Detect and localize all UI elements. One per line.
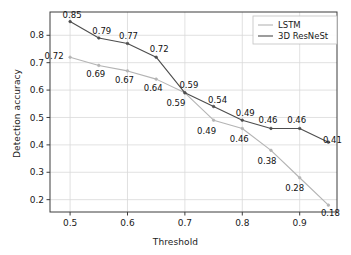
x-axis-title: Threshold — [0, 237, 351, 247]
svg-text:0.4: 0.4 — [30, 140, 45, 150]
y-axis-title-wrapper: Detection accuracy — [5, 54, 24, 174]
svg-text:0.38: 0.38 — [258, 156, 277, 166]
svg-text:0.59: 0.59 — [179, 80, 198, 90]
svg-text:0.28: 0.28 — [285, 183, 304, 193]
chart-figure: 0.50.60.70.80.90.20.30.40.50.60.70.8 0.7… — [0, 0, 351, 255]
svg-text:0.18: 0.18 — [321, 208, 340, 218]
svg-text:0.79: 0.79 — [92, 26, 111, 36]
svg-text:0.3: 0.3 — [30, 167, 44, 177]
svg-text:0.5: 0.5 — [30, 113, 44, 123]
svg-text:0.69: 0.69 — [86, 69, 105, 79]
svg-text:0.2: 0.2 — [30, 195, 44, 205]
svg-text:0.72: 0.72 — [150, 44, 169, 54]
svg-text:0.64: 0.64 — [144, 83, 163, 93]
svg-text:0.7: 0.7 — [30, 58, 44, 68]
svg-text:0.6: 0.6 — [120, 218, 135, 228]
svg-text:3D ResNeSt: 3D ResNeSt — [278, 31, 329, 41]
svg-text:0.59: 0.59 — [166, 98, 185, 108]
svg-text:0.8: 0.8 — [30, 30, 45, 40]
svg-text:0.49: 0.49 — [236, 108, 255, 118]
svg-text:0.41: 0.41 — [323, 135, 342, 145]
svg-text:0.54: 0.54 — [208, 95, 227, 105]
detection-accuracy-line-chart: 0.50.60.70.80.90.20.30.40.50.60.70.8 0.7… — [0, 0, 351, 255]
svg-text:0.5: 0.5 — [63, 218, 77, 228]
svg-text:0.85: 0.85 — [63, 10, 82, 20]
svg-text:0.46: 0.46 — [230, 134, 249, 144]
svg-text:0.77: 0.77 — [119, 31, 138, 41]
y-axis-title: Detection accuracy — [12, 69, 22, 158]
svg-text:0.49: 0.49 — [197, 126, 216, 136]
svg-text:0.7: 0.7 — [178, 218, 192, 228]
chart-legend: LSTM3D ResNeSt — [253, 16, 337, 44]
svg-text:0.8: 0.8 — [235, 218, 250, 228]
svg-text:0.72: 0.72 — [45, 51, 64, 61]
svg-text:0.46: 0.46 — [287, 115, 306, 125]
svg-text:0.6: 0.6 — [30, 85, 45, 95]
svg-text:0.9: 0.9 — [293, 218, 308, 228]
svg-text:0.67: 0.67 — [115, 75, 134, 85]
svg-text:0.46: 0.46 — [259, 115, 278, 125]
svg-text:LSTM: LSTM — [278, 20, 301, 30]
